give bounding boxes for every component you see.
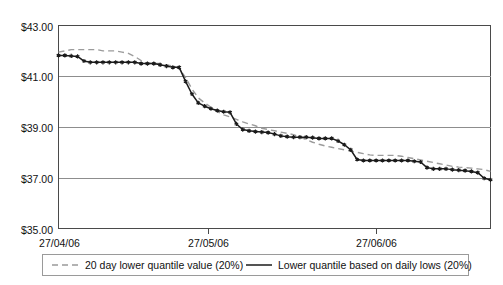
y-axis-tick-label: $41.00 — [21, 71, 53, 83]
legend-label-1: Lower quantile based on daily lows (20%) — [278, 259, 472, 271]
y-axis-tick-label: $43.00 — [21, 21, 53, 33]
chart-container: $43.00$41.00$39.00$37.00$35.00 27/04/062… — [0, 0, 503, 285]
y-axis-tick-label: $37.00 — [21, 173, 53, 185]
x-axis-tick-label: 27/06/06 — [356, 237, 397, 249]
y-axis-tick-label: $39.00 — [21, 122, 53, 134]
x-axis-tick-label: 27/04/06 — [39, 237, 80, 249]
legend: 20 day lower quantile value (20%) Lower … — [43, 255, 472, 276]
legend-label-0: 20 day lower quantile value (20%) — [85, 259, 243, 271]
y-axis-tick-label: $35.00 — [21, 224, 53, 236]
price-quantile-line-chart: $43.00$41.00$39.00$37.00$35.00 27/04/062… — [0, 0, 503, 285]
x-axis-tick-label: 27/05/06 — [188, 237, 229, 249]
